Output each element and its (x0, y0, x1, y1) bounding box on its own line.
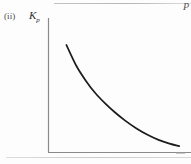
scan-artifact-line-bottom (6, 157, 191, 158)
decay-curve (66, 45, 179, 146)
figure-page: (ii) Kp P (0, 0, 191, 164)
plot-area (0, 0, 191, 164)
page-edge-smudge (176, 152, 185, 154)
